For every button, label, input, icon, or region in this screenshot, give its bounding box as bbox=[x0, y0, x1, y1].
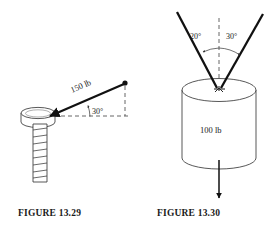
angle-label-20-deg: 20° bbox=[190, 32, 201, 41]
weight-label-100lb: 100 lb bbox=[200, 125, 222, 135]
figure-13-30-group: 20° 30° 100 lb FIGURE 13.30 bbox=[157, 12, 263, 218]
figure-13-29-group: 150 lb 30° FIGURE 13.29 bbox=[18, 77, 130, 218]
figure-sheet: 150 lb 30° FIGURE 13.29 bbox=[0, 0, 276, 237]
angle-label-30-deg: 30° bbox=[92, 107, 103, 116]
angle-arc-20-deg bbox=[203, 48, 219, 52]
angle-label-30-deg-right: 30° bbox=[226, 32, 237, 41]
rope-right-30-deg bbox=[221, 14, 263, 88]
force-vector-150lb bbox=[50, 84, 124, 116]
figure-13-30-caption: FIGURE 13.30 bbox=[157, 208, 220, 218]
angle-arc-30-deg-right bbox=[219, 48, 240, 55]
force-origin-dot bbox=[122, 80, 127, 85]
angle-arc-30-deg bbox=[88, 106, 90, 117]
figure-13-29-caption: FIGURE 13.29 bbox=[18, 208, 81, 218]
force-label-150lb: 150 lb bbox=[69, 77, 93, 95]
cylinder-body bbox=[182, 79, 256, 170]
bolt-shaft bbox=[33, 124, 47, 182]
rope-left-20-deg bbox=[177, 12, 217, 88]
